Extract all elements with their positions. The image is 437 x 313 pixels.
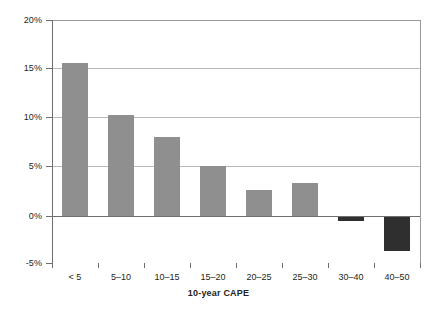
y-axis-label-10: 10% [2,112,42,122]
y-axis-label-neg5: -5% [2,258,42,268]
bar-25-30 [292,183,318,216]
x-tick-8 [420,263,421,268]
x-tick-1 [98,263,99,268]
x-axis-label-15-20: 15–20 [200,272,225,282]
bar-10-15 [154,137,180,216]
bar-series [52,20,420,263]
x-axis-label-30-40: 30–40 [338,272,363,282]
bar-40-50 [384,217,410,251]
x-tick-3 [190,263,191,268]
y-axis-label-5: 5% [2,161,42,171]
x-tick-5 [282,263,283,268]
bar-5-10 [108,115,134,216]
y-axis-label-15: 15% [2,63,42,73]
bar-20-25 [246,190,272,216]
bar-30-40 [338,217,364,221]
x-axis-title: 10-year CAPE [0,288,437,298]
y-axis-label-20: 20% [2,15,42,25]
bar-chart: 20% 15% 10% 5% 0% -5% < 5 5–10 10–15 15–… [0,0,437,313]
x-axis-label-lt-5: < 5 [69,272,82,282]
x-axis-label-5-10: 5–10 [111,272,131,282]
bar-15-20 [200,166,226,216]
x-tick-2 [144,263,145,268]
y-axis-label-0: 0% [2,211,42,221]
x-axis-label-20-25: 20–25 [246,272,271,282]
bar-lt-5 [62,63,88,216]
x-axis-label-40-50: 40–50 [384,272,409,282]
x-tick-4 [236,263,237,268]
x-axis-label-10-15: 10–15 [154,272,179,282]
x-tick-0 [52,263,53,268]
plot-right-border [420,20,421,263]
x-tick-6 [328,263,329,268]
x-tick-7 [374,263,375,268]
x-axis-label-25-30: 25–30 [292,272,317,282]
